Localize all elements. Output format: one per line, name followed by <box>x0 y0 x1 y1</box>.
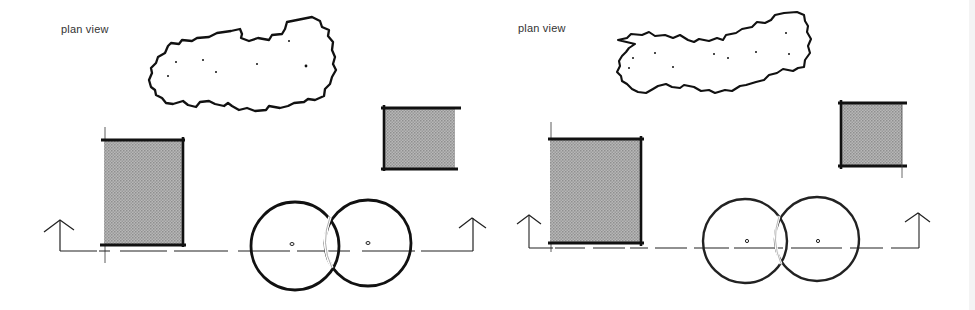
plan-view-panel-left: plan view <box>0 0 487 310</box>
section-arrow-left-icon <box>44 220 74 251</box>
building-block-tall <box>100 127 186 263</box>
section-arrow-right-icon <box>459 218 486 251</box>
overlapping-circles <box>703 197 859 283</box>
tree-canopy-outline <box>149 17 336 111</box>
building-block-small <box>838 100 907 178</box>
building-block-tall <box>548 122 644 252</box>
building-block-small <box>381 105 461 171</box>
tree-canopy-outline <box>617 12 811 93</box>
section-arrow-left-icon <box>517 215 541 248</box>
plan-drawing <box>487 0 975 310</box>
overlapping-circles <box>251 200 411 290</box>
page-edge <box>969 0 975 310</box>
plan-view-panel-right: plan view <box>487 0 975 310</box>
plan-drawing <box>0 0 487 310</box>
section-arrow-right-icon <box>905 213 930 248</box>
